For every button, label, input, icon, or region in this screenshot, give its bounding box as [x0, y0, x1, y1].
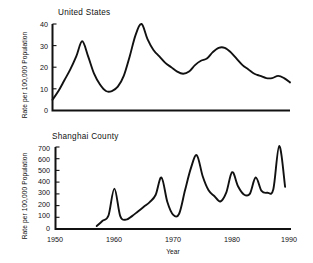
x-axis-title: Year — [166, 248, 180, 255]
x-tick-label-1950: 1950 — [47, 235, 63, 244]
panel-title-shanghai-county: Shanghai County — [52, 132, 119, 141]
y-tick-label-bottom-100: 100 — [38, 211, 50, 220]
y-tick-label-top-10: 10 — [40, 85, 48, 94]
y-tick-label-bottom-600: 600 — [38, 155, 50, 164]
y-tick-label-bottom-400: 400 — [38, 177, 50, 186]
panel-title-united-states: United States — [58, 8, 110, 17]
y-tick-label-top-20: 20 — [40, 63, 48, 72]
y-axis-title-bottom: Rate per 100,000 Population — [21, 152, 29, 239]
series-line-united-states — [53, 24, 291, 100]
x-tick-label-1970: 1970 — [165, 235, 181, 244]
x-tick-label-1990: 1990 — [281, 235, 297, 244]
y-tick-label-top-40: 40 — [40, 20, 48, 29]
y-tick-label-top-0: 0 — [44, 106, 48, 115]
y-tick-label-top-30: 30 — [40, 42, 48, 51]
y-tick-label-bottom-300: 300 — [38, 188, 50, 197]
y-tick-label-bottom-0: 0 — [46, 224, 50, 233]
y-axis-title-top: Rate per 100,000 Population — [21, 31, 29, 118]
axis-lines-bottom — [56, 147, 292, 229]
y-tick-label-bottom-500: 500 — [38, 166, 50, 175]
panel-shanghai-county: Shanghai County Rate per 100,000 Populat… — [21, 132, 297, 255]
y-tick-label-bottom-700: 700 — [38, 144, 50, 153]
y-tick-label-bottom-200: 200 — [38, 200, 50, 209]
figure-container: United States Rate per 100,000 Populatio… — [0, 0, 313, 263]
panel-united-states: United States Rate per 100,000 Populatio… — [21, 8, 290, 118]
series-line-shanghai-county — [97, 146, 285, 226]
dual-line-chart: United States Rate per 100,000 Populatio… — [0, 0, 313, 263]
x-tick-label-1960: 1960 — [106, 235, 122, 244]
x-tick-label-1980: 1980 — [224, 235, 240, 244]
